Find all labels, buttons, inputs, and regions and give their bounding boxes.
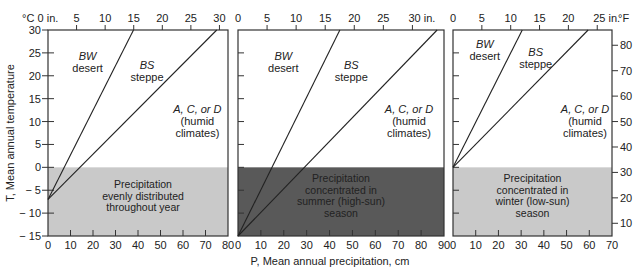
x-tick-label: 70 xyxy=(392,239,404,251)
x-axis-title: P, Mean annual precipitation, cm xyxy=(251,255,410,267)
x-tick-label: 60 xyxy=(177,239,189,251)
x-tick-label: 60 xyxy=(583,239,595,251)
precip-note-line: season xyxy=(516,207,550,219)
precip-note-line: concentrated in xyxy=(497,184,569,196)
label-desert: desert xyxy=(72,62,103,74)
x-tick-label: 50 xyxy=(346,239,358,251)
y-tick-label-f: 60 xyxy=(620,90,632,102)
x-tick-label: 80 xyxy=(415,239,427,251)
x-tick-label: 0 xyxy=(450,239,456,251)
x-top-tick-label: 20 xyxy=(348,12,360,24)
x-tick-label: 0 xyxy=(45,239,51,251)
x-tick-label: 30 xyxy=(515,239,527,251)
x-top-tick-label: 20 xyxy=(562,12,574,24)
x-tick-label: 30 xyxy=(301,239,313,251)
x-top-tick-label: 30 xyxy=(213,12,225,24)
y-tick-label-c: 0 xyxy=(35,161,41,173)
x-tick-label: 40 xyxy=(538,239,550,251)
y-tick-label-f: 30 xyxy=(620,166,632,178)
x-tick-label: 10 xyxy=(255,239,267,251)
x-tick-label: 20 xyxy=(278,239,290,251)
label-humid-classes: A, C, or D xyxy=(384,103,433,115)
y-tick-label-f: 50 xyxy=(620,116,632,128)
label-humid-classes: A, C, or D xyxy=(172,103,221,115)
x-tick-label: 60 xyxy=(369,239,381,251)
y-tick-label-f: 10 xyxy=(620,217,632,229)
x-tick-label: 70 xyxy=(606,239,618,251)
precip-note-line: Precipitation xyxy=(114,178,172,190)
x-top-tick-label: 25 xyxy=(377,12,389,24)
precip-note-line: Precipitation xyxy=(504,172,562,184)
precip-note-line: winter (low-sun) xyxy=(494,195,569,207)
unit-fahrenheit: °F xyxy=(618,12,629,24)
x-top-tick-label: 5 xyxy=(74,12,80,24)
x-tick-label: 40 xyxy=(323,239,335,251)
x-tick-label: 90 xyxy=(438,239,450,251)
label-desert: desert xyxy=(470,50,501,62)
label-humid: (humid xyxy=(181,115,215,127)
x-top-tick-label: 10 xyxy=(290,12,302,24)
x-tick-label: 10 xyxy=(470,239,482,251)
x-top-tick-label: 5 xyxy=(264,12,270,24)
x-top-tick-label: 0 xyxy=(235,12,241,24)
y-tick-label-c: 15 xyxy=(29,93,41,105)
y-tick-label-c: − 10 xyxy=(19,207,41,219)
x-tick-label: 20 xyxy=(87,239,99,251)
label-steppe: steppe xyxy=(130,71,163,83)
y-tick-label-c: 10 xyxy=(29,116,41,128)
label-humid: (humid xyxy=(392,115,426,127)
precip-note-line: summer (high-sun) xyxy=(297,195,385,207)
x-tick-label: 70 xyxy=(199,239,211,251)
x-tick-label: 80 xyxy=(222,239,234,251)
x-tick-label: 50 xyxy=(560,239,572,251)
x-tick-label: 40 xyxy=(132,239,144,251)
climate-classification-chart: 010203040506070800 in.51015202530BWdeser… xyxy=(0,0,642,276)
y-tick-label-f: 80 xyxy=(620,39,632,51)
y-tick-label-c: 25 xyxy=(29,47,41,59)
y-tick-label-f: 40 xyxy=(620,141,632,153)
label-desert: desert xyxy=(268,62,299,74)
label-bw: BW xyxy=(79,50,98,62)
label-bs: BS xyxy=(140,59,155,71)
x-tick-label: 10 xyxy=(64,239,76,251)
x-tick-label: 50 xyxy=(154,239,166,251)
label-bw: BW xyxy=(274,50,293,62)
label-climates: climates) xyxy=(563,127,607,139)
label-bw: BW xyxy=(476,38,495,50)
y-axis-title: T, Mean annual temperature xyxy=(4,64,16,202)
precip-note-line: Precipitation xyxy=(312,172,370,184)
precip-note-line: throughout year xyxy=(106,201,180,213)
x-top-tick-label: 25 in. xyxy=(593,12,620,24)
label-bs: BS xyxy=(528,46,543,58)
x-top-tick-label: 25 xyxy=(185,12,197,24)
y-tick-label-f: 20 xyxy=(620,192,632,204)
x-top-tick-label: 30 in. xyxy=(408,12,435,24)
y-tick-label-c: 5 xyxy=(35,138,41,150)
y-tick-label-c: − 5 xyxy=(25,184,41,196)
x-top-tick-label: 5 xyxy=(479,12,485,24)
x-tick-label: 0 xyxy=(235,239,241,251)
x-top-tick-label: 0 in. xyxy=(38,12,59,24)
precip-note-line: concentrated in xyxy=(305,184,377,196)
label-bs: BS xyxy=(344,59,359,71)
label-steppe: steppe xyxy=(335,71,368,83)
x-top-tick-label: 15 xyxy=(533,12,545,24)
label-steppe: steppe xyxy=(519,58,552,70)
label-climates: climates) xyxy=(387,127,431,139)
y-tick-label-f: 70 xyxy=(620,65,632,77)
y-tick-label-c: 20 xyxy=(29,70,41,82)
y-tick-label-c: 30 xyxy=(29,24,41,36)
y-tick-label-c: − 15 xyxy=(19,230,41,242)
x-top-tick-label: 15 xyxy=(319,12,331,24)
precip-note-line: season xyxy=(324,207,358,219)
x-top-tick-label: 10 xyxy=(505,12,517,24)
x-top-tick-label: 20 xyxy=(156,12,168,24)
x-top-tick-label: 10 xyxy=(99,12,111,24)
x-tick-label: 20 xyxy=(492,239,504,251)
label-climates: climates) xyxy=(175,127,219,139)
x-top-tick-label: 15 xyxy=(128,12,140,24)
precip-note-line: evenly distributed xyxy=(102,190,184,202)
x-tick-label: 30 xyxy=(109,239,121,251)
unit-celsius: °C xyxy=(22,12,34,24)
x-top-tick-label: 0 xyxy=(450,12,456,24)
